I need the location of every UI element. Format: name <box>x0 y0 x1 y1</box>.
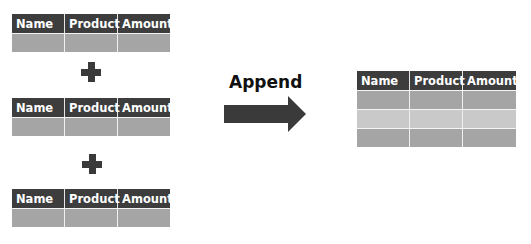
column-header-product: Product <box>65 98 118 117</box>
column-header-amount: Amount <box>463 71 516 90</box>
table-header-row: Name Product Amount <box>12 98 170 117</box>
table-row <box>12 117 170 136</box>
column-header-name: Name <box>12 189 65 208</box>
column-header-amount: Amount <box>118 189 170 208</box>
cell-amount <box>463 110 516 128</box>
figure-caption-clipped <box>190 236 350 244</box>
table-row <box>12 208 170 227</box>
append-label: Append <box>229 72 302 92</box>
column-header-name: Name <box>12 98 65 117</box>
cell-name <box>357 91 410 109</box>
top-caption-clipped <box>0 0 180 3</box>
cell-name <box>12 34 65 52</box>
table-header-row: Name Product Amount <box>357 71 516 90</box>
table-row <box>357 128 516 147</box>
cell-name <box>12 209 65 227</box>
cell-name <box>357 129 410 147</box>
plus-icon <box>81 62 101 82</box>
cell-product <box>65 34 118 52</box>
source-table-2: Name Product Amount <box>12 98 170 136</box>
cell-product <box>410 91 463 109</box>
cell-product <box>65 118 118 136</box>
source-table-3: Name Product Amount <box>12 189 170 227</box>
table-row <box>357 90 516 109</box>
cell-amount <box>463 91 516 109</box>
plus-icon <box>82 154 102 174</box>
right-arrow-icon <box>224 96 306 132</box>
column-header-product: Product <box>410 71 463 90</box>
cell-product <box>410 110 463 128</box>
cell-name <box>357 110 410 128</box>
cell-product <box>410 129 463 147</box>
column-header-product: Product <box>65 14 118 33</box>
cell-amount <box>463 129 516 147</box>
column-header-name: Name <box>357 71 410 90</box>
cell-product <box>65 209 118 227</box>
source-table-1: Name Product Amount <box>12 14 170 52</box>
column-header-name: Name <box>12 14 65 33</box>
cell-name <box>12 118 65 136</box>
column-header-amount: Amount <box>118 14 170 33</box>
cell-amount <box>118 209 170 227</box>
column-header-product: Product <box>65 189 118 208</box>
table-row <box>12 33 170 52</box>
cell-amount <box>118 34 170 52</box>
cell-amount <box>118 118 170 136</box>
result-table: Name Product Amount <box>357 71 516 147</box>
column-header-amount: Amount <box>118 98 170 117</box>
table-header-row: Name Product Amount <box>12 14 170 33</box>
table-header-row: Name Product Amount <box>12 189 170 208</box>
table-row <box>357 109 516 128</box>
